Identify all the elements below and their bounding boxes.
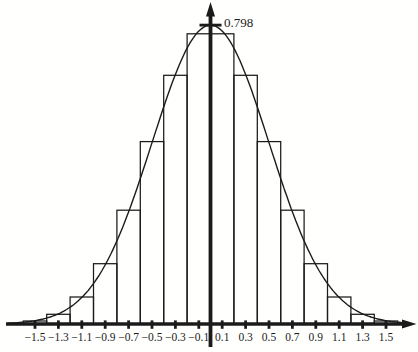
- x-tick-label: −0.3: [165, 331, 186, 343]
- x-tick-label: −0.9: [95, 331, 116, 343]
- x-tick-label: 0.7: [285, 331, 300, 343]
- x-tick-label: 1.3: [355, 331, 370, 343]
- x-axis-arrow-icon: [402, 320, 417, 329]
- histogram-bar: [117, 210, 140, 324]
- histogram-bar: [187, 34, 210, 324]
- histogram-bar: [234, 75, 257, 324]
- histogram-bar: [281, 210, 304, 324]
- normal-curve: [8, 25, 401, 323]
- histogram-bar: [94, 264, 117, 324]
- x-tick-label: −0.1: [188, 331, 209, 343]
- histogram-bar: [70, 297, 93, 324]
- histogram-figure: −1.5−1.3−1.1−0.9−0.7−0.5−0.3−0.10.10.30.…: [0, 0, 418, 352]
- x-tick-label: 1.5: [379, 331, 394, 343]
- x-tick-label: 0.1: [215, 331, 230, 343]
- histogram-bar: [328, 297, 351, 324]
- peak-value-label: 0.798: [224, 15, 253, 30]
- x-tick-label: −1.1: [71, 331, 92, 343]
- x-tick-label: −1.5: [25, 331, 46, 343]
- x-tick-label: 0.3: [238, 331, 253, 343]
- x-tick-label: 1.1: [332, 331, 347, 343]
- x-tick-label: 0.9: [309, 331, 324, 343]
- y-axis-arrow-icon: [206, 2, 215, 17]
- x-tick-label: 0.5: [262, 331, 277, 343]
- x-tick-label: −0.5: [142, 331, 163, 343]
- x-tick-label: −1.3: [48, 331, 69, 343]
- histogram-bar: [164, 75, 187, 324]
- figure-page: −1.5−1.3−1.1−0.9−0.7−0.5−0.3−0.10.10.30.…: [0, 0, 418, 352]
- x-tick-label: −0.7: [118, 331, 139, 343]
- histogram-bar: [304, 264, 327, 324]
- histogram-bar: [211, 34, 234, 324]
